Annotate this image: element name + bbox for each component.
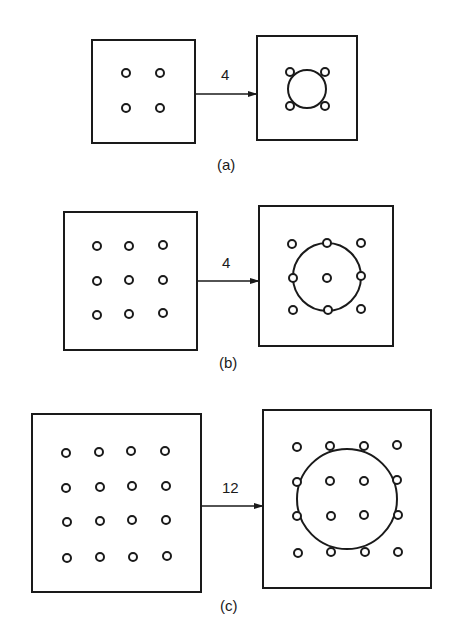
- plate-outline: [257, 36, 357, 140]
- hole: [162, 516, 170, 524]
- hole: [163, 552, 171, 560]
- hole: [394, 548, 402, 556]
- panel-c-right-plate: [263, 410, 431, 588]
- hole: [128, 516, 136, 524]
- hole: [393, 476, 401, 484]
- hole: [96, 483, 104, 491]
- plate-outline: [263, 410, 431, 588]
- hole: [63, 518, 71, 526]
- hole: [125, 276, 133, 284]
- panel-b: 4 (b): [64, 206, 393, 371]
- hole: [122, 69, 130, 77]
- hole: [93, 277, 101, 285]
- hole: [96, 517, 104, 525]
- panel-b-left-plate: [64, 212, 197, 350]
- hole: [293, 512, 301, 520]
- arrow-label: 4: [221, 66, 229, 83]
- hole: [393, 441, 401, 449]
- hole: [156, 69, 164, 77]
- hole: [62, 449, 70, 457]
- hole: [357, 239, 365, 247]
- hole: [293, 443, 301, 451]
- hole: [161, 447, 169, 455]
- hole: [326, 477, 334, 485]
- panel-a: 4 (a): [92, 36, 357, 173]
- hole: [360, 477, 368, 485]
- hole: [327, 512, 335, 520]
- hole: [96, 553, 104, 561]
- panel-b-right-plate: [259, 206, 393, 346]
- arrow-label: 4: [222, 254, 230, 271]
- panel-c: 12 (c): [32, 410, 431, 614]
- hole: [324, 306, 332, 314]
- hole: [93, 242, 101, 250]
- hole: [63, 554, 71, 562]
- hole: [394, 511, 402, 519]
- hole: [326, 442, 334, 450]
- plate-outline: [92, 40, 195, 143]
- panel-b-arrow: 4: [198, 254, 259, 281]
- hole: [288, 240, 296, 248]
- hole: [360, 442, 368, 450]
- hole: [321, 102, 329, 110]
- hole: [156, 104, 164, 112]
- panel-label: (b): [219, 354, 237, 371]
- panel-a-arrow: 4: [196, 66, 257, 94]
- hole: [323, 239, 331, 247]
- hole: [323, 274, 331, 282]
- diagram-canvas: 4 (a) 4: [0, 0, 454, 644]
- hole: [62, 484, 70, 492]
- hole: [357, 305, 365, 313]
- hole: [128, 482, 136, 490]
- hole: [127, 447, 135, 455]
- panel-c-arrow: 12: [201, 479, 263, 506]
- hole: [361, 548, 369, 556]
- hole: [159, 309, 167, 317]
- hole: [286, 68, 294, 76]
- hole: [321, 68, 329, 76]
- hole: [125, 242, 133, 250]
- hole: [289, 274, 297, 282]
- arrow-label: 12: [222, 479, 239, 496]
- hole: [125, 310, 133, 318]
- hole: [159, 276, 167, 284]
- hole: [122, 104, 130, 112]
- hole: [294, 549, 302, 557]
- hole: [357, 272, 365, 280]
- hole: [289, 306, 297, 314]
- hole: [95, 448, 103, 456]
- panel-label: (a): [217, 156, 235, 173]
- hole: [93, 311, 101, 319]
- hole: [293, 478, 301, 486]
- panel-a-left-plate: [92, 40, 195, 143]
- hole: [286, 102, 294, 110]
- panel-c-left-plate: [32, 414, 201, 592]
- plate-outline: [32, 414, 201, 592]
- hole: [327, 548, 335, 556]
- panel-a-right-plate: [257, 36, 357, 140]
- hole: [360, 511, 368, 519]
- panel-label: (c): [220, 597, 238, 614]
- hole: [159, 241, 167, 249]
- hole: [129, 553, 137, 561]
- hole: [162, 482, 170, 490]
